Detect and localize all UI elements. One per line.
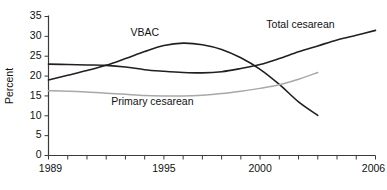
series-line-total-cesarean xyxy=(49,30,376,73)
y-tick-label: 0 xyxy=(36,148,42,160)
chart-container: 05101520253035 1989199520002006 VBACTota… xyxy=(0,0,387,190)
y-tick-label: 30 xyxy=(30,29,42,41)
y-tick-label: 25 xyxy=(30,49,42,61)
y-tick-label: 15 xyxy=(30,89,42,101)
y-tick-label: 35 xyxy=(30,9,42,21)
x-axis: 1989199520002006 xyxy=(39,156,386,174)
y-tick-label: 20 xyxy=(30,69,42,81)
y-axis-title: Percent xyxy=(3,68,15,104)
x-tick-label: 2000 xyxy=(248,162,272,174)
series-line-primary-cesarean xyxy=(49,73,318,97)
x-tick-label: 2006 xyxy=(362,162,386,174)
series-label-total-cesarean: Total cesarean xyxy=(266,18,334,30)
series-label-vbac: VBAC xyxy=(130,26,159,38)
y-tick-label: 5 xyxy=(36,128,42,140)
y-tick-label: 10 xyxy=(30,109,42,121)
x-tick-label: 1995 xyxy=(152,162,176,174)
series-label-primary-cesarean: Primary cesarean xyxy=(111,95,193,107)
y-axis: 05101520253035 xyxy=(30,9,49,160)
x-tick-label: 1989 xyxy=(39,162,63,174)
line-chart: 05101520253035 1989199520002006 VBACTota… xyxy=(0,0,387,190)
series-layer xyxy=(49,30,376,115)
